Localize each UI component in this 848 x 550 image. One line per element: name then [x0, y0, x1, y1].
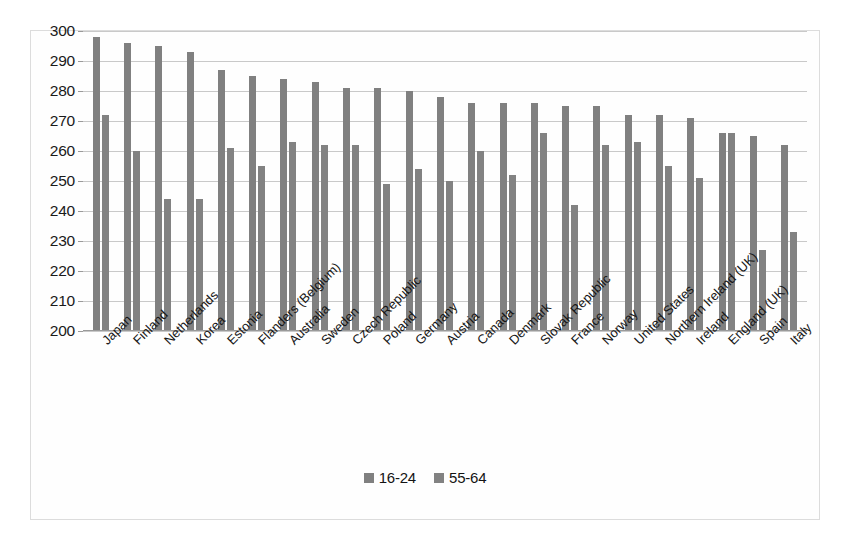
- legend-item[interactable]: 55-64: [434, 469, 486, 486]
- bar-group[interactable]: [85, 31, 116, 331]
- x-label-slot: Sweden: [304, 333, 335, 453]
- plot-area: [83, 31, 807, 331]
- bar-16-24[interactable]: [719, 133, 726, 331]
- x-axis-labels: JapanFinlandNetherlandsKoreaEstoniaFland…: [83, 333, 807, 453]
- bar-group[interactable]: [648, 31, 679, 331]
- x-label-slot: Poland: [367, 333, 398, 453]
- bar-group[interactable]: [742, 31, 773, 331]
- x-label-slot: Japan: [85, 333, 116, 453]
- bar-16-24[interactable]: [374, 88, 381, 331]
- bar-16-24[interactable]: [781, 145, 788, 331]
- bar-group[interactable]: [367, 31, 398, 331]
- bar-16-24[interactable]: [93, 37, 100, 331]
- bar-group[interactable]: [554, 31, 585, 331]
- bar-16-24[interactable]: [656, 115, 663, 331]
- bar-group[interactable]: [210, 31, 241, 331]
- bar-55-64[interactable]: [634, 142, 641, 331]
- x-label-slot: Korea: [179, 333, 210, 453]
- x-label-slot: France: [554, 333, 585, 453]
- bar-55-64[interactable]: [102, 115, 109, 331]
- x-label-slot: Italy: [774, 333, 805, 453]
- bar-group[interactable]: [273, 31, 304, 331]
- bar-55-64[interactable]: [227, 148, 234, 331]
- x-label-slot: Canada: [461, 333, 492, 453]
- bar-55-64[interactable]: [258, 166, 265, 331]
- x-label-slot: Denmark: [492, 333, 523, 453]
- legend-swatch-icon: [434, 473, 444, 483]
- bar-16-24[interactable]: [218, 70, 225, 331]
- y-tick-label: 230: [50, 232, 75, 250]
- bar-55-64[interactable]: [133, 151, 140, 331]
- legend-label: 55-64: [449, 469, 486, 486]
- y-tick-label: 240: [50, 202, 75, 220]
- y-tick-mark: [78, 331, 83, 332]
- y-tick-label: 210: [50, 292, 75, 310]
- y-tick-label: 220: [50, 262, 75, 280]
- bar-group[interactable]: [492, 31, 523, 331]
- bars-layer: [83, 31, 807, 331]
- bar-55-64[interactable]: [790, 232, 797, 331]
- chart-legend: 16-2455-64: [31, 469, 819, 486]
- bar-group[interactable]: [116, 31, 147, 331]
- bar-16-24[interactable]: [562, 106, 569, 331]
- y-axis: 300290280270260250240230220210200: [31, 31, 79, 331]
- bar-55-64[interactable]: [477, 151, 484, 331]
- x-label-slot: Netherlands: [148, 333, 179, 453]
- y-tick-label: 290: [50, 52, 75, 70]
- bar-group[interactable]: [617, 31, 648, 331]
- bar-16-24[interactable]: [343, 88, 350, 331]
- y-tick-label: 280: [50, 82, 75, 100]
- legend-item[interactable]: 16-24: [364, 469, 416, 486]
- legend-label: 16-24: [379, 469, 416, 486]
- x-label-slot: Austria: [429, 333, 460, 453]
- bar-group[interactable]: [335, 31, 366, 331]
- legend-swatch-icon: [364, 473, 374, 483]
- x-label-slot: Flanders (Belgium): [241, 333, 272, 453]
- bar-group[interactable]: [429, 31, 460, 331]
- x-label-slot: Slovak Republic: [523, 333, 554, 453]
- bar-16-24[interactable]: [750, 136, 757, 331]
- y-tick-label: 300: [50, 22, 75, 40]
- bar-55-64[interactable]: [352, 145, 359, 331]
- x-label-slot: Czech Republic: [335, 333, 366, 453]
- x-label-slot: Norway: [586, 333, 617, 453]
- bar-16-24[interactable]: [124, 43, 131, 331]
- y-tick-label: 270: [50, 112, 75, 130]
- bar-16-24[interactable]: [468, 103, 475, 331]
- bar-16-24[interactable]: [155, 46, 162, 331]
- bar-16-24[interactable]: [280, 79, 287, 331]
- bar-group[interactable]: [523, 31, 554, 331]
- x-label-slot: Northern Ireland (UK): [648, 333, 679, 453]
- x-label-slot: Spain: [742, 333, 773, 453]
- y-tick-label: 200: [50, 322, 75, 340]
- bar-group[interactable]: [461, 31, 492, 331]
- x-label-slot: Australia: [273, 333, 304, 453]
- bar-16-24[interactable]: [437, 97, 444, 331]
- bar-group[interactable]: [148, 31, 179, 331]
- x-label-slot: Finland: [116, 333, 147, 453]
- bar-55-64[interactable]: [728, 133, 735, 331]
- x-label-slot: Estonia: [210, 333, 241, 453]
- bar-16-24[interactable]: [187, 52, 194, 331]
- y-tick-label: 260: [50, 142, 75, 160]
- y-tick-label: 250: [50, 172, 75, 190]
- bar-group[interactable]: [241, 31, 272, 331]
- bar-16-24[interactable]: [500, 103, 507, 331]
- x-label-slot: Ireland: [680, 333, 711, 453]
- bar-55-64[interactable]: [602, 145, 609, 331]
- bar-group[interactable]: [179, 31, 210, 331]
- bar-16-24[interactable]: [531, 103, 538, 331]
- x-label-slot: Germany: [398, 333, 429, 453]
- plot-wrapper: 300290280270260250240230220210200: [31, 31, 819, 331]
- bar-16-24[interactable]: [249, 76, 256, 331]
- bar-55-64[interactable]: [415, 169, 422, 331]
- bar-16-24[interactable]: [625, 115, 632, 331]
- x-label-slot: England (UK): [711, 333, 742, 453]
- chart-container: 300290280270260250240230220210200 JapanF…: [30, 30, 820, 520]
- x-label-slot: United States: [617, 333, 648, 453]
